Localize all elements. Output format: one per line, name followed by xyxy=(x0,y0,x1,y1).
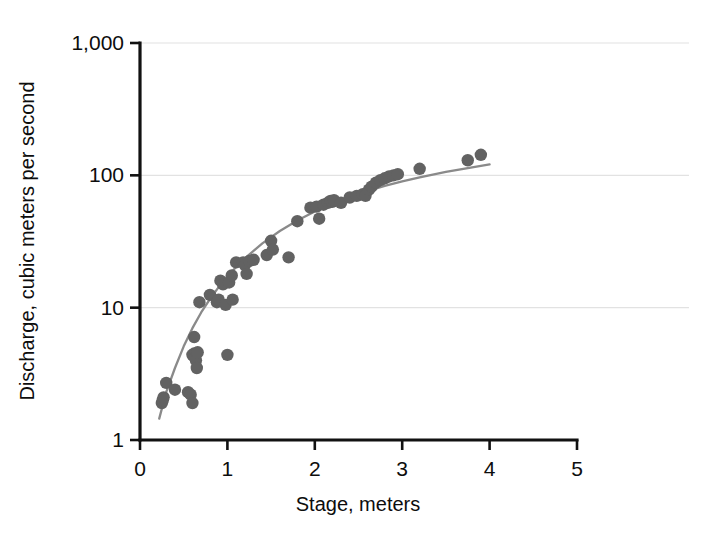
rating-curve-chart: 1101001,000 012345 Stage, meters Dischar… xyxy=(0,0,702,540)
data-point xyxy=(193,296,205,308)
x-axis-ticks: 012345 xyxy=(134,440,583,480)
y-tick-label: 100 xyxy=(89,163,124,186)
data-point xyxy=(221,349,233,361)
chart-canvas: 1101001,000 012345 Stage, meters Dischar… xyxy=(0,0,702,540)
x-tick-label: 5 xyxy=(571,457,583,480)
data-point xyxy=(188,331,200,343)
x-tick-label: 1 xyxy=(222,457,234,480)
x-axis-title: Stage, meters xyxy=(296,493,421,515)
data-point xyxy=(169,383,181,395)
data-point xyxy=(240,268,252,280)
data-point xyxy=(191,362,203,374)
data-point xyxy=(226,293,238,305)
y-tick-label: 10 xyxy=(101,296,124,319)
data-point xyxy=(157,391,169,403)
data-points-group xyxy=(156,149,487,410)
data-point xyxy=(291,215,303,227)
data-point xyxy=(475,149,487,161)
x-tick-label: 2 xyxy=(309,457,321,480)
gridlines-group xyxy=(140,43,689,308)
data-point xyxy=(186,397,198,409)
y-tick-label: 1,000 xyxy=(71,31,124,54)
data-point xyxy=(313,213,325,225)
data-point xyxy=(191,346,203,358)
x-tick-label: 0 xyxy=(134,457,146,480)
x-tick-label: 4 xyxy=(484,457,496,480)
data-point xyxy=(247,254,259,266)
data-point xyxy=(267,243,279,255)
data-point xyxy=(462,154,474,166)
x-tick-label: 3 xyxy=(396,457,408,480)
data-point xyxy=(392,168,404,180)
data-point xyxy=(282,251,294,263)
y-tick-label: 1 xyxy=(112,428,124,451)
data-point xyxy=(413,163,425,175)
y-axis-ticks: 1101001,000 xyxy=(71,31,140,451)
y-axis-title: Discharge, cubic meters per second xyxy=(16,81,38,400)
data-point xyxy=(226,269,238,281)
